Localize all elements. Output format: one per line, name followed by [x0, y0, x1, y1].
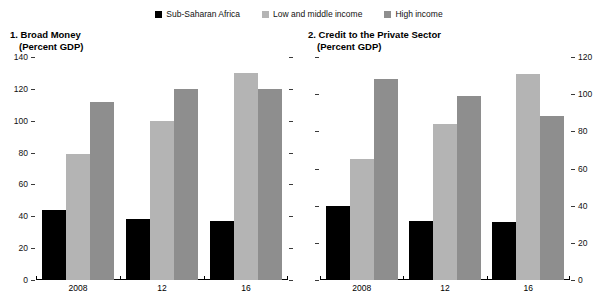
y-axis-tick-label: 80: [578, 127, 587, 136]
bar: [374, 79, 398, 280]
bar: [433, 124, 457, 280]
x-axis-group-label: 2008: [352, 284, 371, 293]
y-axis-tick-label: 80: [19, 148, 28, 157]
y-axis-tick: [571, 94, 575, 95]
bar: [457, 96, 481, 280]
bar-groups: 20081216: [320, 57, 570, 280]
bar-group: 2008: [42, 57, 114, 280]
y-axis-tick-label: 60: [578, 164, 587, 173]
bar-group: 2008: [326, 57, 398, 280]
y-axis-tick: [571, 206, 575, 207]
bar: [350, 159, 374, 280]
bar-groups: 20081216: [36, 57, 288, 280]
bar: [174, 89, 198, 280]
bar: [540, 116, 564, 280]
panel-subtitle-2-text: (Percent GDP): [308, 41, 441, 53]
panel-subtitle-1-text: (Percent GDP): [10, 41, 83, 53]
bar-group: 16: [492, 57, 564, 280]
panel-credit-private-sector: 2. Credit to the Private Sector (Percent…: [298, 0, 598, 299]
y-axis-tick-label: 140: [14, 53, 28, 62]
y-axis-tick: [31, 216, 35, 217]
y-axis-tick-mirror: [289, 184, 293, 185]
panel-title-2-text: 2. Credit to the Private Sector: [308, 29, 441, 40]
bar-group: 12: [126, 57, 198, 280]
x-axis-separator-tick: [487, 276, 488, 280]
bar: [126, 219, 150, 280]
plot-area-broad-money: 02040608010012014020081216: [36, 57, 288, 280]
y-axis-tick: [31, 280, 35, 281]
y-axis-tick-mirror: [315, 94, 319, 95]
x-axis-separator-tick: [204, 276, 205, 280]
y-axis-tick-mirror: [315, 206, 319, 207]
panel-broad-money: 1. Broad Money (Percent GDP) 02040608010…: [0, 0, 300, 299]
y-axis-tick: [31, 121, 35, 122]
y-axis-tick-mirror: [289, 248, 293, 249]
y-axis-tick-mirror: [315, 57, 319, 58]
y-axis-tick: [571, 57, 575, 58]
y-axis-tick-label: 120: [14, 84, 28, 93]
panel-title-1: 1. Broad Money (Percent GDP): [10, 29, 83, 52]
x-axis-separator-tick: [403, 276, 404, 280]
y-axis-tick-label: 0: [578, 276, 583, 285]
y-axis-tick-label: 20: [19, 244, 28, 253]
y-axis-tick: [571, 169, 575, 170]
y-axis-tick: [31, 89, 35, 90]
bar: [258, 89, 282, 280]
y-axis-tick: [571, 280, 575, 281]
bar: [210, 221, 234, 280]
y-axis-tick: [571, 131, 575, 132]
bar: [234, 73, 258, 280]
y-axis-tick-mirror: [289, 89, 293, 90]
x-axis-group-label: 2008: [69, 284, 88, 293]
y-axis-tick-label: 60: [19, 180, 28, 189]
bar-group: 12: [409, 57, 481, 280]
y-axis-tick-label: 120: [578, 53, 592, 62]
y-axis-tick-mirror: [289, 280, 293, 281]
y-axis-tick-label: 100: [14, 116, 28, 125]
bar: [150, 121, 174, 280]
y-axis-tick-label: 100: [578, 90, 592, 99]
x-axis-group-label: 16: [524, 284, 533, 293]
y-axis-tick: [31, 57, 35, 58]
y-axis-tick: [31, 184, 35, 185]
bar: [42, 210, 66, 280]
panel-title-2: 2. Credit to the Private Sector (Percent…: [308, 29, 441, 52]
bar: [516, 74, 540, 280]
x-axis-group-label: 16: [241, 284, 250, 293]
y-axis-tick-mirror: [289, 57, 293, 58]
bar-group: 16: [210, 57, 282, 280]
y-axis-tick-label: 40: [19, 212, 28, 221]
y-axis-tick: [31, 248, 35, 249]
bar: [326, 206, 350, 280]
y-axis-tick: [571, 243, 575, 244]
bar: [492, 222, 516, 280]
bar: [409, 221, 433, 280]
y-axis-tick-mirror: [289, 121, 293, 122]
y-axis-tick: [31, 153, 35, 154]
x-axis-group-label: 12: [157, 284, 166, 293]
plot-area-credit: 02040608010012020081216: [320, 57, 570, 280]
y-axis-tick-mirror: [315, 243, 319, 244]
y-axis-tick-mirror: [289, 216, 293, 217]
y-axis-tick-mirror: [315, 131, 319, 132]
bar: [90, 102, 114, 280]
x-axis-group-label: 12: [440, 284, 449, 293]
bar: [66, 154, 90, 280]
x-axis-separator-tick: [120, 276, 121, 280]
y-axis-tick-mirror: [315, 280, 319, 281]
panel-title-1-text: 1. Broad Money: [10, 29, 81, 40]
figure: Sub-Saharan AfricaLow and middle incomeH…: [0, 0, 598, 299]
y-axis-tick-label: 0: [23, 276, 28, 285]
y-axis-tick-mirror: [315, 169, 319, 170]
y-axis-tick-label: 20: [578, 238, 587, 247]
y-axis-tick-mirror: [289, 153, 293, 154]
y-axis-tick-label: 40: [578, 201, 587, 210]
